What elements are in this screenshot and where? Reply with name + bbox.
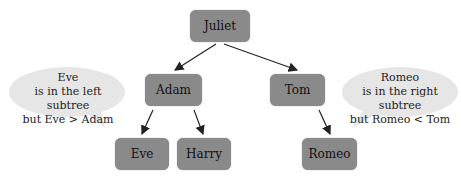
node-juliet: Juliet <box>190 10 250 42</box>
right-bubble-text: Romeo is in the right subtree but Romeo … <box>342 71 458 127</box>
left-bubble-text: Eve is in the left subtree but Eve > Ada… <box>12 71 124 127</box>
right-bubble-line: Romeo <box>342 71 458 85</box>
node-tom: Tom <box>270 74 325 106</box>
left-bubble-line: Eve <box>12 71 124 85</box>
node-adam: Adam <box>145 74 202 106</box>
node-harry: Harry <box>177 138 231 170</box>
node-eve: Eve <box>115 138 169 170</box>
right-bubble-line: is in the right subtree <box>342 85 458 113</box>
right-bubble-line: but Romeo < Tom <box>342 113 458 127</box>
left-bubble-line: is in the left subtree <box>12 85 124 113</box>
left-bubble-line: but Eve > Adam <box>12 113 124 127</box>
node-romeo: Romeo <box>302 138 357 170</box>
